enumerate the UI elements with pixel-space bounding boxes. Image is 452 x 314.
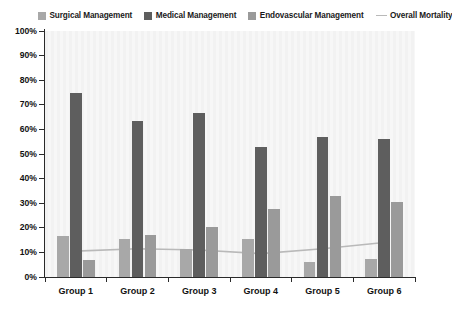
x-axis-tick-label: Group 6 <box>367 287 402 296</box>
plot-area <box>45 31 415 277</box>
legend-surgical-management[interactable]: Surgical Management <box>38 12 132 20</box>
y-axis-tick <box>39 203 44 204</box>
x-axis-tick <box>230 278 231 282</box>
bar-endovascular-group-6 <box>391 202 403 277</box>
legend-swatch-marker <box>248 12 256 20</box>
y-axis-tick-label: 20% <box>3 223 37 232</box>
bar-endovascular-group-4 <box>268 209 280 277</box>
x-axis-tick <box>291 278 292 282</box>
bar-endovascular-group-5 <box>330 196 342 277</box>
bar-medical-group-4 <box>255 147 267 277</box>
bar-medical-group-6 <box>378 139 390 277</box>
bar-surgical-group-4 <box>242 239 254 277</box>
y-axis-tick-label: 70% <box>3 100 37 109</box>
legend-item-label: Surgical Management <box>50 12 133 20</box>
y-axis-tick-label: 30% <box>3 199 37 208</box>
legend-swatch-marker <box>38 12 46 20</box>
x-axis-tick-label: Group 4 <box>244 287 279 296</box>
legend-swatch-marker <box>144 12 152 20</box>
y-axis-tick <box>39 154 44 155</box>
y-axis-tick <box>39 80 44 81</box>
bar-surgical-group-2 <box>119 239 131 277</box>
bar-endovascular-group-3 <box>206 227 218 277</box>
x-axis-tick <box>353 278 354 282</box>
x-axis-tick-label: Group 5 <box>305 287 340 296</box>
bar-medical-group-5 <box>317 137 329 277</box>
x-axis-tick-label: Group 1 <box>59 287 94 296</box>
y-axis-tick-label: 40% <box>3 174 37 183</box>
legend-item-label: Medical Management <box>156 12 237 20</box>
y-axis-tick <box>39 178 44 179</box>
legend-line-marker <box>376 15 387 16</box>
legend-medical-management[interactable]: Medical Management <box>144 12 236 20</box>
x-axis-tick-label: Group 3 <box>182 287 217 296</box>
bar-endovascular-group-2 <box>145 235 157 277</box>
y-axis-tick <box>39 252 44 253</box>
y-axis-tick-label: 0% <box>3 273 37 282</box>
bar-surgical-group-6 <box>365 259 377 277</box>
y-axis-tick-label: 50% <box>3 150 37 159</box>
y-axis-tick <box>39 129 44 130</box>
bar-medical-group-2 <box>132 121 144 277</box>
y-axis-tick <box>39 31 44 32</box>
legend-item-label: Endovascular Management <box>260 12 364 20</box>
y-axis-tick <box>39 227 44 228</box>
legend-item-label: Overall Mortality <box>390 12 452 20</box>
x-axis-tick <box>45 278 46 282</box>
y-axis-tick <box>39 104 44 105</box>
y-axis-tick <box>39 55 44 56</box>
y-axis-tick-label: 100% <box>3 27 37 36</box>
bar-surgical-group-3 <box>180 249 192 277</box>
bar-surgical-group-1 <box>57 236 69 277</box>
x-axis-tick <box>168 278 169 282</box>
x-axis-tick <box>415 278 416 282</box>
bar-medical-group-1 <box>70 93 82 278</box>
bar-medical-group-3 <box>193 113 205 277</box>
y-axis-tick-label: 10% <box>3 248 37 257</box>
y-axis-tick <box>39 277 44 278</box>
chart-legend: Surgical ManagementMedical ManagementEnd… <box>38 9 420 23</box>
legend-endovascular-management[interactable]: Endovascular Management <box>248 12 363 20</box>
x-axis-tick <box>106 278 107 282</box>
overall-mortality-line <box>45 31 415 277</box>
bar-endovascular-group-1 <box>83 260 95 277</box>
x-axis-tick-label: Group 2 <box>120 287 155 296</box>
legend-overall-mortality[interactable]: Overall Mortality <box>376 12 452 20</box>
y-axis-tick-label: 60% <box>3 125 37 134</box>
y-axis-tick-label: 90% <box>3 51 37 60</box>
bar-surgical-group-5 <box>304 262 316 277</box>
y-axis-tick-label: 80% <box>3 76 37 85</box>
